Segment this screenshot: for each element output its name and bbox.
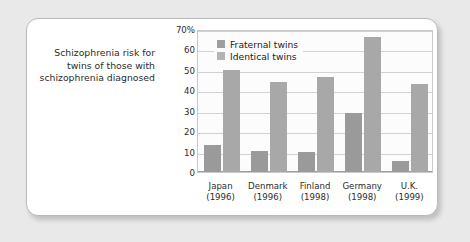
y-tick-label: 50 [169, 66, 195, 76]
legend-label-identical: Identical twins [230, 51, 297, 62]
figure-caption: Schizophrenia risk for twins of those wi… [37, 47, 155, 85]
y-tick-label: 0 [169, 168, 195, 178]
legend-item-identical: Identical twins [217, 50, 298, 62]
figure-card: Schizophrenia risk for twins of those wi… [26, 18, 438, 216]
legend-swatch-fraternal-icon [217, 40, 225, 48]
x-tick-country: U.K. [386, 181, 433, 192]
bar-identical-japan [223, 70, 240, 172]
x-tick-label: Finland(1998) [291, 181, 338, 204]
x-tick-country: Germany [339, 181, 386, 192]
x-tick-year: (1999) [386, 192, 433, 203]
x-tick-year: (1998) [339, 192, 386, 203]
bar-fraternal-finland [298, 152, 315, 172]
chart-plot-region: 010203040506070% Fraternal twins Identic… [169, 30, 433, 206]
y-tick-label: 40 [169, 86, 195, 96]
x-tick-label: Japan(1996) [197, 181, 244, 204]
x-tick-label: Germany(1998) [339, 181, 386, 204]
x-tick-country: Japan [197, 181, 244, 192]
bar-identical-finland [317, 77, 334, 172]
x-axis: Japan(1996)Denmark(1996)Finland(1998)Ger… [197, 176, 433, 206]
y-axis: 010203040506070% [169, 30, 195, 173]
x-tick-label: U.K.(1999) [386, 181, 433, 204]
y-tick-label: 60 [169, 45, 195, 55]
x-tick-country: Finland [291, 181, 338, 192]
bar-fraternal-denmark [251, 151, 268, 172]
x-tick-year: (1996) [244, 192, 291, 203]
plot-area: Fraternal twins Identical twins [197, 30, 433, 173]
legend-item-fraternal: Fraternal twins [217, 38, 298, 50]
y-tick-label: 70% [169, 25, 195, 35]
x-tick-year: (1996) [197, 192, 244, 203]
x-tick-country: Denmark [244, 181, 291, 192]
y-tick-label: 10 [169, 148, 195, 158]
legend-swatch-identical-icon [217, 52, 225, 60]
bar-identical-denmark [270, 82, 287, 172]
y-tick-label: 30 [169, 107, 195, 117]
y-tick-label: 20 [169, 127, 195, 137]
bar-fraternal-germany [345, 113, 362, 172]
bar-identical-germany [364, 37, 381, 172]
bar-identical-uk [411, 84, 428, 172]
x-tick-year: (1998) [291, 192, 338, 203]
bar-fraternal-uk [392, 161, 409, 172]
x-tick-label: Denmark(1996) [244, 181, 291, 204]
chart-legend: Fraternal twins Identical twins [214, 36, 303, 65]
legend-label-fraternal: Fraternal twins [230, 39, 298, 50]
bar-fraternal-japan [204, 145, 221, 172]
